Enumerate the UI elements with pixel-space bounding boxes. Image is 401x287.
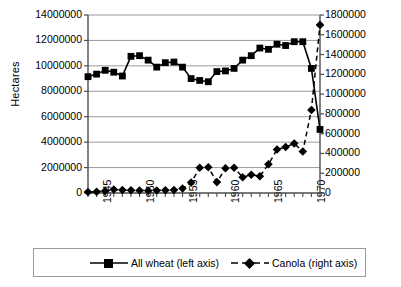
- legend-key-square-solid: [90, 257, 128, 269]
- legend-item-all-wheat: All wheat (left axis): [90, 255, 219, 271]
- series-all-wheat: [85, 38, 324, 133]
- axis-lines: [88, 15, 320, 193]
- legend-label-canola: Canola (right axis): [272, 257, 357, 269]
- legend-item-canola: Canola (right axis): [231, 255, 357, 271]
- plot-area: [0, 0, 401, 287]
- chart-container: Hectares 0200000040000006000000800000010…: [0, 0, 401, 287]
- legend-key-diamond-dashed: [231, 257, 269, 269]
- chart-legend: All wheat (left axis) Canola (right axis…: [33, 248, 366, 277]
- legend-label-all-wheat: All wheat (left axis): [131, 257, 219, 269]
- data-series-layer: [84, 21, 325, 197]
